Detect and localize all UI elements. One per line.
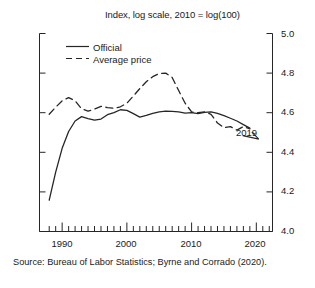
source-note: Source: Bureau of Labor Statistics; Byrn… xyxy=(13,256,303,269)
plot-canvas xyxy=(0,0,315,288)
series-line-official xyxy=(49,110,250,200)
chart-title: Index, log scale, 2010 = log(100) xyxy=(105,9,240,20)
x-tick-label-2020: 2020 xyxy=(244,238,265,249)
y-tick-label-5-0: 5.0 xyxy=(281,28,294,39)
x-tick-label-2010: 2010 xyxy=(180,238,201,249)
series-line-average-price xyxy=(49,73,250,130)
chart-figure: Index, log scale, 2010 = log(100) Offici… xyxy=(0,0,315,288)
x-tick-label-1990: 1990 xyxy=(51,238,72,249)
y-tick-label-4-0: 4.0 xyxy=(281,225,294,236)
legend-label-average-price: Average price xyxy=(93,54,151,65)
annotation-2019: 2019 xyxy=(236,127,257,138)
y-tick-label-4-6: 4.6 xyxy=(281,106,294,117)
y-tick-label-4-4: 4.4 xyxy=(281,146,294,157)
legend-label-official: Official xyxy=(93,42,122,53)
x-tick-label-2000: 2000 xyxy=(115,238,136,249)
y-tick-label-4-8: 4.8 xyxy=(281,67,294,78)
y-tick-marks-left xyxy=(40,34,46,232)
series-lines xyxy=(49,73,250,200)
x-tick-marks xyxy=(49,223,269,232)
y-tick-marks-right xyxy=(267,34,273,232)
y-tick-label-4-2: 4.2 xyxy=(281,185,294,196)
legend-line-swatches xyxy=(66,47,89,59)
